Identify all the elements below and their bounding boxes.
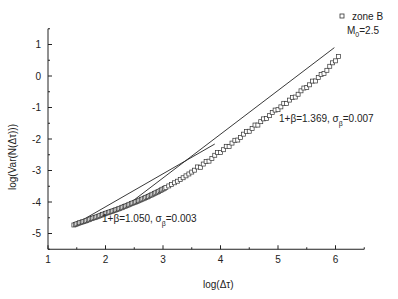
- legend-series-label: zone B: [352, 11, 383, 22]
- fit-annotations: 1+β=1.050, σβ=0.003 1+β=1.369, σβ=0.007: [102, 113, 374, 228]
- data-point: [336, 54, 340, 58]
- chart: 123456-5-4-3-2-101 log(Δτ) log(Var(N(Δτ)…: [0, 0, 398, 299]
- y-tick-label: -1: [32, 102, 41, 113]
- data-point: [334, 59, 338, 63]
- x-tick-label: 2: [103, 254, 109, 265]
- y-axis-label: log(Var(N(Δτ))): [7, 124, 18, 190]
- axes: 123456-5-4-3-2-101: [32, 29, 364, 266]
- x-tick-label: 3: [160, 254, 166, 265]
- x-axis-label: log(Δτ): [203, 279, 234, 290]
- y-tick-label: 1: [35, 39, 41, 50]
- x-tick-label: 4: [218, 254, 224, 265]
- legend-param: M0=2.5: [347, 25, 379, 38]
- legend: zone B M0=2.5: [340, 11, 383, 38]
- legend-marker-icon: [340, 14, 344, 18]
- data-point: [325, 68, 329, 72]
- fit-line-1: [131, 48, 334, 202]
- x-tick-label: 1: [45, 254, 51, 265]
- y-tick-label: -3: [32, 165, 41, 176]
- y-tick-label: 0: [35, 71, 41, 82]
- y-tick-label: -4: [32, 197, 41, 208]
- fit-label-high: 1+β=1.369, σβ=0.007: [279, 113, 374, 128]
- x-tick-label: 5: [275, 254, 281, 265]
- y-tick-label: -5: [32, 228, 41, 239]
- y-tick-label: -2: [32, 134, 41, 145]
- fit-lines: [74, 48, 334, 225]
- data-points: [72, 54, 341, 227]
- x-tick-label: 6: [333, 254, 339, 265]
- fit-label-low: 1+β=1.050, σβ=0.003: [102, 213, 197, 228]
